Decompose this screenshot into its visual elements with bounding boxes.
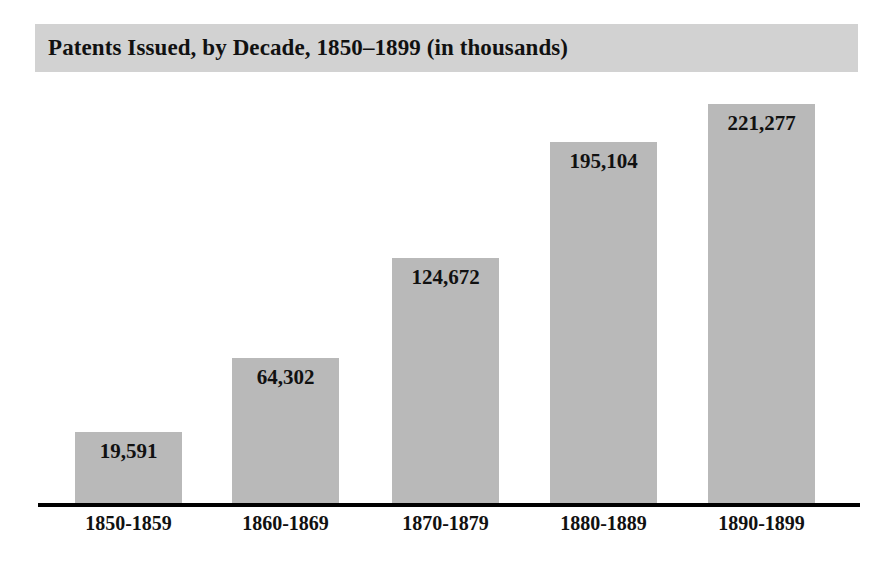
bar-value-label: 195,104: [550, 149, 657, 174]
x-axis-tick-label-1890-1899: 1890-1899: [708, 512, 815, 535]
x-axis-tick-label-1850-1859: 1850-1859: [75, 512, 182, 535]
bar-value-label: 19,591: [75, 439, 182, 464]
bar-1890-1899[interactable]: 221,277: [708, 104, 815, 505]
x-axis-line: [38, 503, 860, 507]
bar-1860-1869[interactable]: 64,302: [232, 358, 339, 505]
x-axis-tick-label-1870-1879: 1870-1879: [392, 512, 499, 535]
bar-value-label: 221,277: [708, 111, 815, 136]
bar-1870-1879[interactable]: 124,672: [392, 258, 499, 505]
chart-figure: Patents Issued, by Decade, 1850–1899 (in…: [0, 0, 895, 562]
bar-1880-1889[interactable]: 195,104: [550, 142, 657, 505]
bar-1850-1859[interactable]: 19,591: [75, 432, 182, 505]
bar-chart-plot-area: 19,591 64,302 124,672 195,104 221,277: [0, 0, 895, 562]
x-axis-tick-label-1880-1889: 1880-1889: [550, 512, 657, 535]
x-axis-tick-label-1860-1869: 1860-1869: [232, 512, 339, 535]
bar-value-label: 64,302: [232, 365, 339, 390]
bar-value-label: 124,672: [392, 265, 499, 290]
